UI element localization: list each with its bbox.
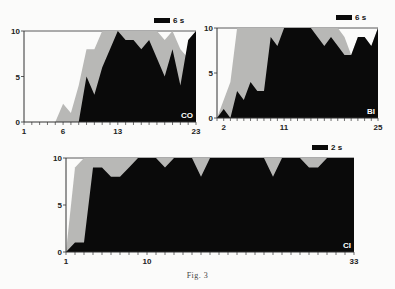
y-tick-label: 0 (58, 248, 63, 257)
figure-caption: Fig. 3 (0, 271, 395, 280)
panel-label: BI (367, 107, 375, 116)
scale-bar (312, 145, 328, 150)
scale-bar (336, 15, 352, 20)
x-tick-label: 10 (143, 257, 152, 266)
x-tick-label: 2 (221, 123, 226, 132)
y-tick-label: 0 (16, 118, 21, 127)
scale-bar-label: 6 s (355, 13, 367, 22)
x-tick-label: 11 (280, 123, 289, 132)
panel-label: CO (181, 111, 193, 120)
chart-bi: 211250510BI6 s (204, 13, 383, 132)
scale-bar-label: 2 s (331, 143, 343, 152)
x-tick-label: 1 (22, 127, 27, 136)
y-tick-label: 5 (58, 201, 63, 210)
x-tick-label: 33 (350, 257, 359, 266)
x-tick-label: 1 (64, 257, 69, 266)
panel-label: CI (343, 241, 351, 250)
scale-bar (154, 18, 170, 23)
y-tick-label: 10 (53, 154, 62, 163)
chart-co: 1613230510CO6 s (11, 16, 201, 136)
y-tick-label: 10 (11, 27, 20, 36)
chart-ci: 110330510CI2 s (53, 143, 359, 266)
y-tick-label: 5 (16, 73, 21, 82)
y-tick-label: 10 (204, 24, 213, 33)
y-tick-label: 0 (209, 114, 214, 123)
x-tick-label: 6 (61, 127, 66, 136)
y-tick-label: 5 (209, 69, 214, 78)
x-tick-label: 13 (113, 127, 122, 136)
x-tick-label: 25 (374, 123, 383, 132)
x-tick-label: 23 (192, 127, 201, 136)
scale-bar-label: 6 s (173, 16, 185, 25)
figure-canvas: 1613230510CO6 s 211250510BI6 s 110330510… (0, 0, 395, 289)
